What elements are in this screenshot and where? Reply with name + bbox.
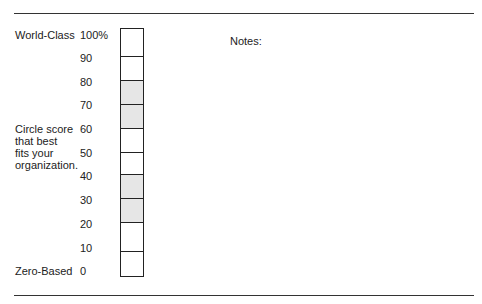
instruction-line-4: organization.: [15, 159, 78, 171]
scale-cell-0-10[interactable]: [121, 251, 143, 276]
scale-cell-50-60[interactable]: [121, 128, 143, 152]
tick-40: 40: [80, 170, 92, 182]
scale-cell-90-100[interactable]: [121, 29, 143, 56]
zero-based-label: Zero-Based: [15, 265, 72, 277]
instruction-line-3: fits your: [15, 147, 54, 159]
scale-cell-10-20[interactable]: [121, 222, 143, 251]
notes-label: Notes:: [230, 35, 262, 47]
tick-0: 0: [80, 265, 86, 277]
scale-cell-60-70[interactable]: [121, 104, 143, 128]
world-class-label: World-Class: [15, 29, 75, 41]
scale-cell-80-90[interactable]: [121, 56, 143, 80]
scale-cell-20-30[interactable]: [121, 198, 143, 222]
tick-90: 90: [80, 52, 92, 64]
scale-cell-70-80[interactable]: [121, 80, 143, 104]
tick-20: 20: [80, 218, 92, 230]
score-scale: [120, 28, 144, 277]
bottom-divider: [14, 295, 474, 296]
tick-70: 70: [80, 99, 92, 111]
tick-80: 80: [80, 76, 92, 88]
tick-50: 50: [80, 147, 92, 159]
tick-10: 10: [80, 242, 92, 254]
scale-cell-40-50[interactable]: [121, 152, 143, 174]
tick-60: 60: [80, 123, 92, 135]
instruction-line-2: that best: [15, 135, 57, 147]
tick-100: 100%: [80, 29, 108, 41]
instruction-line-1: Circle score: [15, 123, 73, 135]
top-divider: [14, 13, 474, 14]
tick-30: 30: [80, 194, 92, 206]
scale-cell-30-40[interactable]: [121, 174, 143, 198]
